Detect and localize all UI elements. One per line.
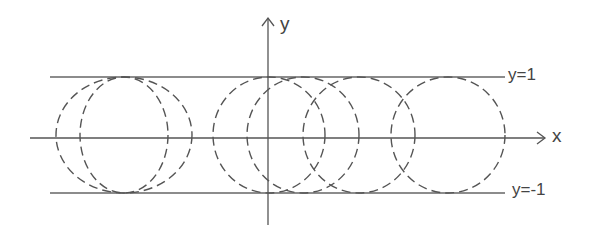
diagram-canvas (0, 0, 591, 229)
dashed-circle (56, 77, 192, 193)
upper-line-label: y=1 (508, 66, 536, 83)
dashed-circle (213, 77, 325, 193)
dashed-circle (80, 77, 168, 193)
dashed-circle (391, 77, 505, 193)
y-axis-label: y (280, 14, 290, 33)
dashed-circles (56, 77, 505, 193)
x-axis-label: x (552, 126, 562, 145)
dashed-circle (247, 77, 359, 193)
lower-line-label: y=-1 (512, 181, 546, 198)
